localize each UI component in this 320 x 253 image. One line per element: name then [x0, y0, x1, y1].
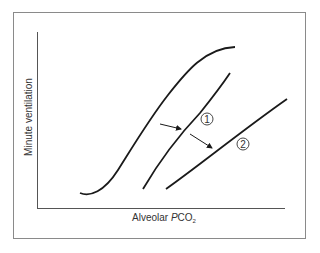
curve-2-label: 2 [237, 138, 249, 150]
shift-arrow-2 [190, 134, 212, 148]
curve-1 [143, 73, 230, 189]
shift-arrow-1 [160, 124, 181, 129]
x-axis-label: Alveolar PCO2 [132, 212, 196, 224]
y-axis-label: Minute ventilation [23, 78, 34, 156]
svg-text:2: 2 [240, 139, 246, 150]
svg-text:1: 1 [204, 114, 210, 125]
curve-1-label: 1 [201, 113, 213, 125]
curve-2 [166, 99, 287, 189]
